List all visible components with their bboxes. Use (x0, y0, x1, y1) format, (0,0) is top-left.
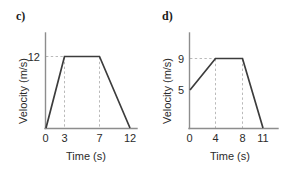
panel-d: d) 9 5 0 4 8 11 (150, 0, 300, 170)
velocity-time-graphs-figure: c) 12 0 3 7 12 (0, 0, 300, 170)
panel-d-plot: 9 5 0 4 8 11 Time (s) Velocity (m/s) (150, 0, 300, 170)
panel-c-xtick-3: 12 (124, 132, 136, 144)
panel-d-axes (189, 33, 278, 129)
panel-c-xtick-0: 0 (42, 132, 48, 144)
panel-c-xtick-2: 7 (96, 132, 102, 144)
panel-c-ytick-0: 12 (28, 51, 40, 63)
panel-d-guide-lines (190, 59, 243, 129)
panel-c-tick-labels: 12 0 3 7 12 (28, 51, 136, 145)
panel-d-xtick-1: 4 (212, 132, 218, 144)
panel-c-xaxis-title: Time (s) (66, 150, 106, 162)
panel-d-ytick-1: 5 (178, 84, 184, 96)
panel-c-data-line (46, 57, 130, 129)
panel-c-plot: 12 0 3 7 12 Time (s) Velocity (m/s) (0, 0, 150, 170)
panel-d-data-line (190, 59, 263, 129)
panel-c-xtick-1: 3 (61, 132, 67, 144)
panel-d-xtick-0: 0 (186, 132, 192, 144)
panel-d-xtick-2: 8 (239, 132, 245, 144)
panel-d-yaxis-title: Velocity (m/s) (161, 58, 173, 124)
panel-d-xtick-3: 11 (257, 132, 268, 144)
panel-c-yaxis-title: Velocity (m/s) (17, 58, 29, 124)
panel-d-xaxis-title: Time (s) (210, 150, 250, 162)
panel-c: c) 12 0 3 7 12 (0, 0, 150, 170)
panel-d-ytick-0: 9 (178, 53, 184, 65)
panel-c-guide-lines (46, 57, 100, 129)
